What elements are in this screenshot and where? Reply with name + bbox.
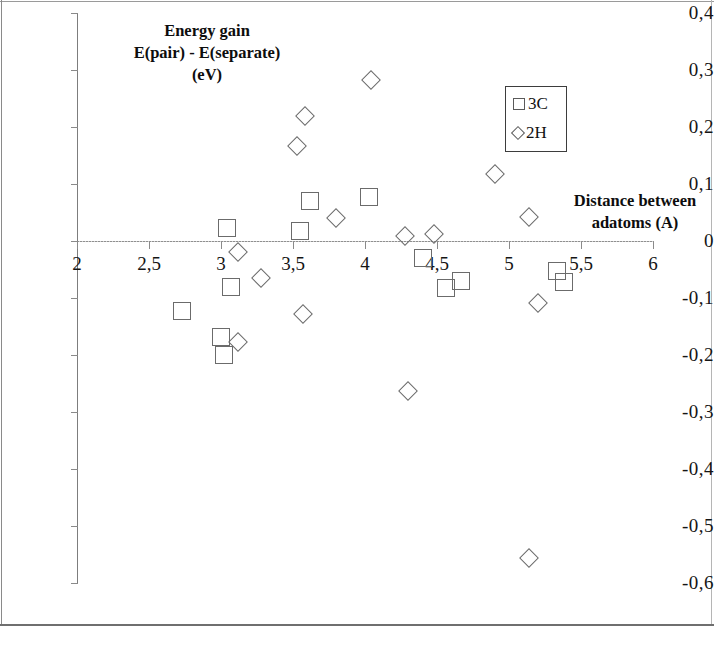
data-point-3c [360, 188, 378, 206]
x-tick-label: 6 [648, 253, 658, 275]
y-tick [71, 184, 78, 185]
data-point-2h [251, 268, 271, 288]
data-point-2h [295, 106, 315, 126]
x-axis-title-line-2: adatoms (A) [556, 212, 714, 234]
data-point-3c [222, 278, 240, 296]
data-point-2h [228, 242, 248, 262]
y-tick [71, 355, 78, 356]
data-point-3c [414, 249, 432, 267]
y-tick-label: -0,1 [652, 287, 714, 309]
x-tick-label: 2,5 [137, 253, 161, 275]
x-tick [365, 242, 366, 249]
x-axis-title-line-1: Distance between [556, 190, 714, 212]
data-point-3c [212, 328, 230, 346]
y-tick [71, 412, 78, 413]
chart-legend: 3C 2H [505, 86, 567, 152]
x-tick [77, 242, 78, 249]
y-tick [71, 298, 78, 299]
y-tick-label: 0,2 [652, 116, 714, 138]
data-point-3c [452, 272, 470, 290]
data-point-2h [361, 70, 381, 90]
legend-label-3c: 3C [528, 94, 548, 114]
x-tick-label: 3 [216, 253, 226, 275]
data-point-2h [395, 226, 415, 246]
y-tick-label: 0,4 [652, 2, 714, 24]
data-point-3c [173, 302, 191, 320]
x-axis-title: Distance between adatoms (A) [556, 190, 714, 234]
x-tick-label: 5,5 [569, 253, 593, 275]
legend-entry-2h: 2H [513, 123, 547, 143]
y-tick-label: 0,3 [652, 59, 714, 81]
data-point-2h [287, 136, 307, 156]
square-marker-icon [513, 98, 525, 110]
y-tick-label: -0,2 [652, 344, 714, 366]
x-tick-label: 5 [504, 253, 514, 275]
y-tick-label: -0,5 [652, 515, 714, 537]
y-tick-label: -0,3 [652, 401, 714, 423]
y-tick [71, 13, 78, 14]
data-point-2h [519, 207, 539, 227]
x-tick [581, 242, 582, 249]
y-tick [71, 469, 78, 470]
legend-entry-3c: 3C [513, 94, 548, 114]
chart-page: 0,40,30,20,10-0,1-0,2-0,3-0,4-0,5-0,6 22… [0, 0, 714, 646]
data-point-3c [291, 222, 309, 240]
y-axis-title-line-3: (eV) [82, 64, 332, 86]
y-tick-label: -0,4 [652, 458, 714, 480]
x-tick [437, 242, 438, 249]
x-tick [509, 242, 510, 249]
data-point-2h [528, 293, 548, 313]
data-point-3c [555, 273, 573, 291]
data-point-3c [218, 219, 236, 237]
data-point-3c [301, 192, 319, 210]
data-point-2h [519, 548, 539, 568]
data-point-2h [293, 304, 313, 324]
y-tick [71, 526, 78, 527]
x-tick [221, 242, 222, 249]
y-axis-title-line-2: E(pair) - E(separate) [82, 42, 332, 64]
diamond-marker-icon [511, 126, 525, 140]
data-point-2h [398, 381, 418, 401]
x-tick-label: 2 [72, 253, 82, 275]
x-tick-label: 4 [360, 253, 370, 275]
y-tick [71, 70, 78, 71]
data-point-2h [485, 164, 505, 184]
x-tick [653, 242, 654, 249]
x-tick-label: 3,5 [281, 253, 305, 275]
data-point-2h [326, 208, 346, 228]
legend-label-2h: 2H [526, 123, 547, 143]
y-tick-label: -0,6 [652, 572, 714, 594]
scatter-plot: 0,40,30,20,10-0,1-0,2-0,3-0,4-0,5-0,6 22… [0, 0, 714, 625]
data-point-3c [215, 346, 233, 364]
y-axis-title: Energy gain E(pair) - E(separate) (eV) [82, 20, 332, 85]
y-tick [71, 583, 78, 584]
y-axis-title-line-1: Energy gain [82, 20, 332, 42]
y-tick [71, 127, 78, 128]
x-tick [293, 242, 294, 249]
x-tick [149, 242, 150, 249]
